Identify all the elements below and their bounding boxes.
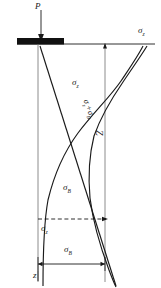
sigma-b-dimension-label: σB — [64, 245, 72, 256]
sigma-z-curve-label: σz — [72, 78, 79, 89]
load-label: P — [35, 2, 41, 11]
footing-block — [17, 38, 64, 45]
sigma-z-plus-b-curve — [89, 46, 147, 287]
sigma-z-curve — [43, 46, 143, 286]
sigma-z-bottom-label: σz — [41, 224, 48, 235]
sigma-b-mid-label: σB — [63, 183, 71, 194]
sigma-z-top-label: σz — [138, 26, 145, 37]
stress-distribution-figure: P σz σz σz+σB Z σB σz σB z — [0, 0, 161, 288]
dimension-arrow-right — [101, 262, 106, 266]
dimension-arrow-left — [38, 262, 43, 266]
figure-canvas — [0, 0, 161, 288]
depth-bottom-label: z — [33, 271, 37, 280]
depth-axis-label: Z — [94, 130, 104, 136]
